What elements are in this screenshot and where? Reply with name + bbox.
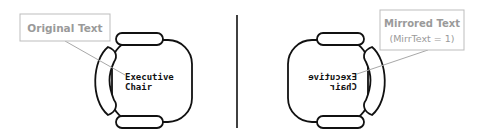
chair-arm-top [317, 33, 364, 45]
right-chair-mirrored: Executive Chair [288, 33, 385, 128]
chair-arm-bottom [116, 116, 163, 128]
chair-arm-top [116, 33, 163, 45]
callout-sublabel: (MirrText = 1) [389, 33, 454, 44]
diagram-canvas: Executive Chair Original Text Executive … [0, 0, 494, 134]
chair-arm-bottom [317, 116, 364, 128]
left-chair-original: Executive Chair [95, 33, 192, 128]
chair-label-line2: Chair [125, 82, 153, 92]
callout-label: Mirrored Text [384, 18, 460, 29]
mirrored-chair-label-line1: Executive [308, 72, 357, 82]
mirrored-text-callout: Mirrored Text (MirrText = 1) [380, 10, 464, 50]
chair-label-line1: Executive [125, 72, 174, 82]
mirrored-chair-label-line2: Chair [329, 82, 357, 92]
callout-label: Original Text [27, 22, 102, 34]
callout-box [380, 10, 464, 50]
original-text-callout: Original Text [20, 14, 110, 41]
